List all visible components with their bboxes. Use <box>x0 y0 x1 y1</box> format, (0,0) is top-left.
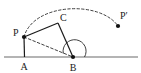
point-label-C: C <box>60 12 67 23</box>
point-label-P: P <box>13 27 19 38</box>
segment-PC <box>24 23 58 37</box>
point-Pprime-dot <box>116 24 120 28</box>
rotation-arc-P-to-Pprime <box>24 9 118 37</box>
point-B-dot <box>71 55 75 59</box>
point-label-B: B <box>70 62 77 73</box>
figure-canvas: P C A B P′ <box>0 0 141 73</box>
point-label-Pprime: P′ <box>120 10 128 21</box>
point-P-dot <box>22 35 26 39</box>
point-label-A: A <box>20 61 28 72</box>
segment-PA <box>24 37 25 57</box>
geometry-figure: P C A B P′ <box>0 0 141 73</box>
